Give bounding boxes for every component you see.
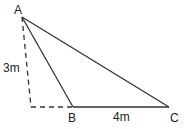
edge-AC bbox=[22, 17, 169, 107]
vertex-label-A: A bbox=[14, 3, 22, 17]
height-measurement-label: 3m bbox=[3, 61, 20, 75]
triangle-diagram: A B C 3m 4m bbox=[0, 0, 187, 129]
vertex-label-C: C bbox=[170, 111, 179, 125]
vertex-label-B: B bbox=[68, 111, 76, 125]
base-measurement-label: 4m bbox=[113, 110, 130, 124]
